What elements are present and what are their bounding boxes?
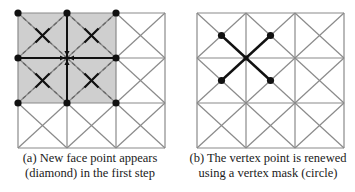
vertex-dot — [112, 9, 119, 16]
caption-b-line1: (b) The vertex point is renewed — [178, 151, 355, 166]
vertex-dot — [112, 54, 119, 61]
caption-b-line2: using a vertex mask (circle) — [178, 166, 355, 181]
caption-b: (b) The vertex point is renewed using a … — [178, 151, 355, 181]
vertex-dot — [112, 99, 119, 106]
vertex-dot — [14, 99, 21, 106]
vertex-mask-edge — [222, 58, 247, 81]
vertex-dot — [14, 9, 21, 16]
face-point-dot — [267, 32, 274, 39]
caption-a-line1: (a) New face point appears — [0, 151, 180, 166]
caption-a: (a) New face point appears (diamond) in … — [0, 151, 180, 181]
vertex-mask-edge — [246, 36, 271, 59]
vertex-mask-edge — [222, 36, 247, 59]
vertex-dot — [63, 9, 70, 16]
face-point-dot — [267, 77, 274, 84]
face-point-dot — [218, 77, 225, 84]
face-point-dot — [218, 32, 225, 39]
vertex-mask-edge — [246, 58, 271, 81]
panel-b-vertex-mask-diagram — [179, 0, 355, 150]
caption-a-line2: (diamond) in the first step — [0, 166, 180, 181]
center-vertex — [244, 56, 249, 61]
vertex-dot — [14, 54, 21, 61]
panel-a-face-point-diagram — [0, 0, 180, 150]
vertex-dot — [63, 99, 70, 106]
